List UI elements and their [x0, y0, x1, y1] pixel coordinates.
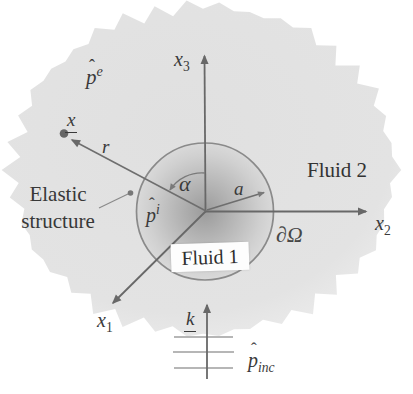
exterior-pressure-label: ˆpe — [86, 64, 103, 89]
hat-accent: ˆ — [251, 340, 257, 359]
incident-wavefront-lines — [173, 337, 234, 368]
hat-accent: ˆ — [149, 195, 155, 214]
wave-vector-label: k — [184, 309, 196, 332]
alpha-angle-label: α — [179, 172, 191, 196]
elastic-structure-label: Elastic structure — [4, 181, 112, 235]
fluid1-label: Fluid 1 — [181, 245, 239, 269]
radius-a-label: a — [234, 179, 244, 200]
x2-axis-label: x2 — [375, 212, 391, 239]
fluid1-label-box: Fluid 1 — [171, 242, 250, 273]
hat-accent: ˆ — [89, 57, 95, 77]
r-distance-label: r — [102, 137, 109, 158]
incident-pressure-label: ˆpinc — [248, 349, 275, 376]
field-point-label: x — [65, 110, 77, 133]
scattering-diagram: ˆpe x r Elastic structure α a ˆpi Fluid … — [0, 0, 413, 394]
interior-pressure-label: ˆpi — [146, 203, 160, 226]
x3-axis — [205, 56, 206, 211]
elastic-structure-leader-dot — [128, 190, 134, 196]
fluid2-label: Fluid 2 — [307, 159, 367, 182]
boundary-domega-label: ∂Ω — [276, 223, 303, 247]
x3-axis-label: x3 — [174, 48, 190, 75]
x1-axis-label: x1 — [97, 309, 113, 336]
